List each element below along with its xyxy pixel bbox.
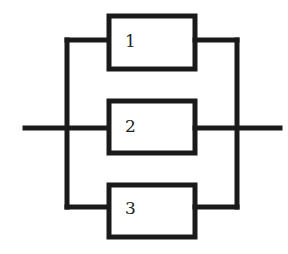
block-1 [109, 16, 195, 69]
parallel-diagram: 1 2 3 [0, 0, 288, 254]
block-2-label: 2 [125, 116, 136, 136]
block-3 [109, 185, 195, 237]
block-3-label: 3 [125, 198, 136, 218]
block-1-label: 1 [125, 31, 136, 51]
block-2 [109, 101, 195, 153]
